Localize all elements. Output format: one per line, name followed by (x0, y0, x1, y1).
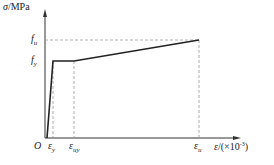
stress-strain-curve (47, 40, 199, 138)
origin-label: O (34, 140, 41, 151)
epsilon-y-label: εy (48, 140, 55, 154)
epsilon-uy-label: εuy (69, 140, 80, 154)
fy-label: fy (31, 54, 37, 68)
y-axis-label: σ/MPa (3, 1, 30, 12)
fu-label: fu (31, 33, 37, 47)
epsilon-u-label: εu (194, 140, 201, 154)
y-axis-arrow-icon (43, 9, 47, 17)
x-axis-arrow-icon (233, 136, 241, 140)
guide-lines (45, 40, 199, 138)
x-axis-label: ε/(×10-3) (214, 141, 248, 152)
